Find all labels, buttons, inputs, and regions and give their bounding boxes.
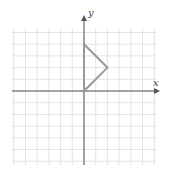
- coordinate-plane: [0, 0, 171, 177]
- y-axis-label: y: [88, 7, 94, 18]
- x-axis-arrow-icon: [154, 88, 160, 94]
- x-axis-label: x: [153, 77, 159, 88]
- y-axis-arrow-icon: [81, 15, 87, 21]
